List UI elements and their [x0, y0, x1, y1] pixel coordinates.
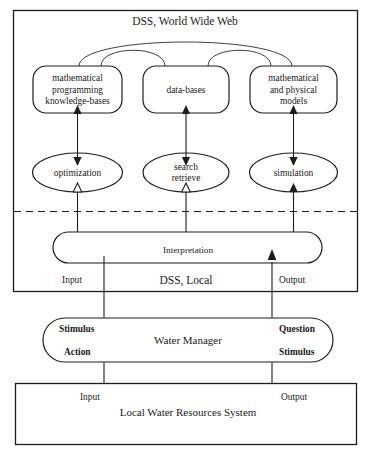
node-label-line: models [280, 96, 307, 106]
water-manager-label: Water Manager [154, 334, 222, 346]
ellipse-label-line: retrieve [172, 173, 201, 183]
node-label-line: programming [52, 85, 103, 95]
diagram-title: DSS, World Wide Web [132, 15, 238, 28]
dss-input-label: Input [62, 275, 82, 285]
interpretation-label: Interpretation [163, 245, 213, 255]
manager-action-label: Action [64, 347, 91, 357]
dss-output-label: Output [279, 275, 305, 285]
node-label-line: mathematical [52, 73, 103, 83]
node-label-line: data-bases [166, 85, 205, 95]
manager-stimulus-back-label: Stimulus [279, 347, 315, 357]
ellipse-label-line: simulation [274, 168, 314, 178]
system-output-label: Output [281, 392, 307, 402]
node-label-line: and physical [270, 85, 318, 95]
dss-local-label: DSS, Local [159, 274, 212, 287]
node-label-line: knowledge-bases [45, 96, 110, 106]
node-label-line: mathematical [268, 73, 319, 83]
system-input-label: Input [80, 392, 100, 402]
manager-question-label: Question [279, 324, 316, 334]
ellipse-label-line: optimization [54, 168, 102, 178]
diagram-canvas: DSS, World Wide Web mathematical program… [0, 0, 371, 453]
water-dss-architecture-diagram: DSS, World Wide Web mathematical program… [0, 0, 371, 453]
manager-stimulus-in-label: Stimulus [59, 324, 95, 334]
local-water-resources-system-label: Local Water Resources System [120, 406, 257, 418]
